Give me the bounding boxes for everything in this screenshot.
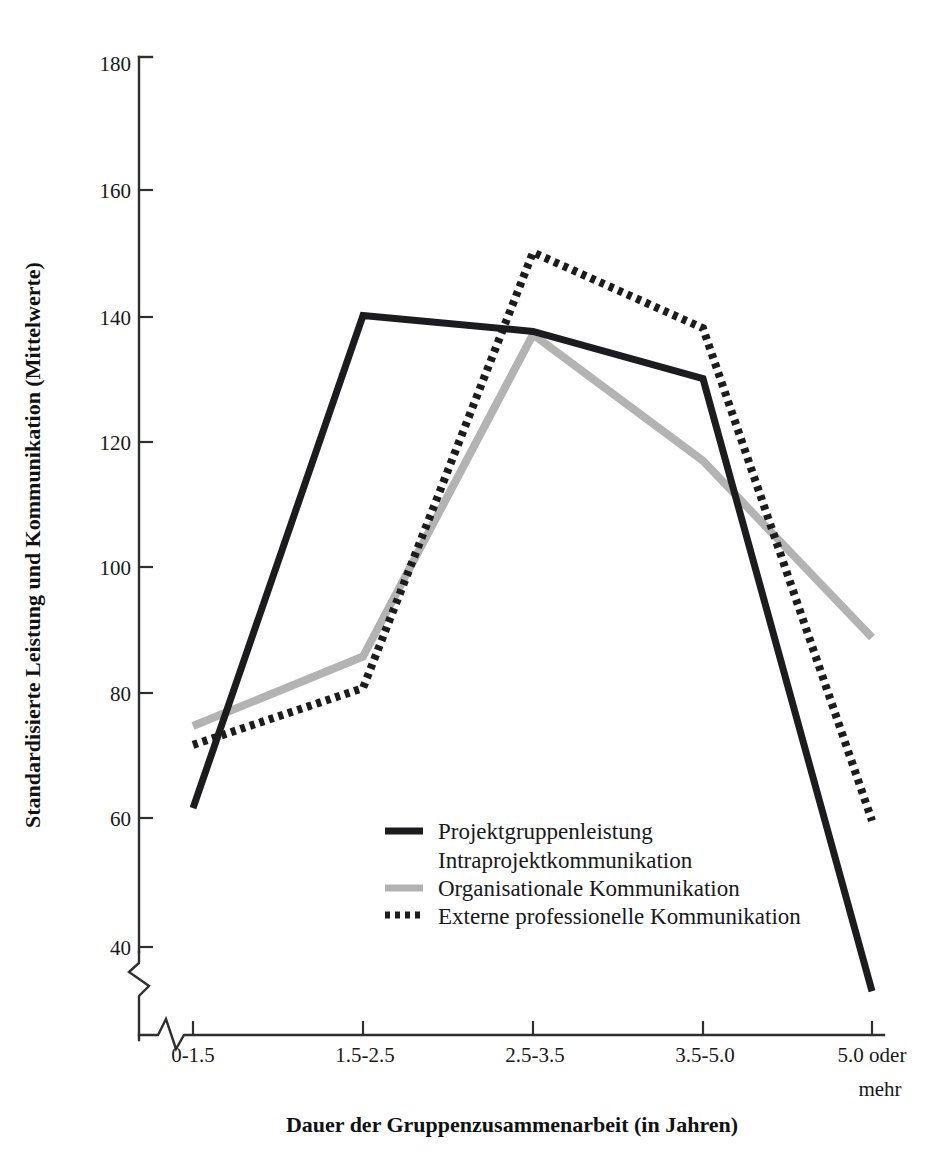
x-tick-label-5-line2: mehr	[858, 1077, 901, 1101]
x-axis: 0-1.5 1.5-2.5 2.5-3.5 3.5-5.0 5.0 oder m…	[139, 1019, 906, 1101]
y-tick-label-80: 80	[110, 682, 131, 706]
x-axis-title: Dauer der Gruppenzusammenarbeit (in Jahr…	[286, 1112, 738, 1137]
y-tick-label-100: 100	[100, 556, 132, 580]
line-chart-canvas: 180 160 140 120 100 80 60 40 0-1.5 1.5-2…	[0, 0, 952, 1165]
series-line-organisationale-kommunikation	[193, 335, 872, 727]
x-tick-label-5: 5.0 oder	[838, 1043, 907, 1067]
y-axis-break-mark	[129, 952, 149, 1040]
legend: Projektgruppenleistung Intraprojektkommu…	[385, 819, 801, 929]
y-tick-label-160: 160	[100, 179, 132, 203]
chart-figure: 180 160 140 120 100 80 60 40 0-1.5 1.5-2…	[0, 0, 952, 1165]
y-tick-label-60: 60	[110, 807, 131, 831]
x-tick-label-4: 3.5-5.0	[675, 1043, 735, 1067]
y-tick-label-140: 140	[100, 306, 132, 330]
legend-label-projektgruppenleistung: Projektgruppenleistung	[438, 819, 653, 844]
y-tick-label-180: 180	[100, 52, 132, 76]
y-tick-label-40: 40	[110, 936, 131, 960]
x-tick-label-3: 2.5-3.5	[505, 1043, 565, 1067]
x-tick-label-1: 0-1.5	[171, 1043, 215, 1067]
y-axis: 180 160 140 120 100 80 60 40	[100, 52, 154, 1040]
y-tick-label-120: 120	[100, 431, 132, 455]
y-axis-title: Standardisierte Leistung und Kommunikati…	[20, 262, 45, 828]
legend-label-organisationale-kommunikation: Organisationale Kommunikation	[438, 876, 740, 901]
legend-label-externe-professionelle-kommunikation: Externe professionelle Kommunikation	[438, 904, 801, 929]
legend-label-intraprojektkommunikation: Intraprojektkommunikation	[438, 848, 693, 873]
x-tick-label-2: 1.5-2.5	[335, 1043, 395, 1067]
